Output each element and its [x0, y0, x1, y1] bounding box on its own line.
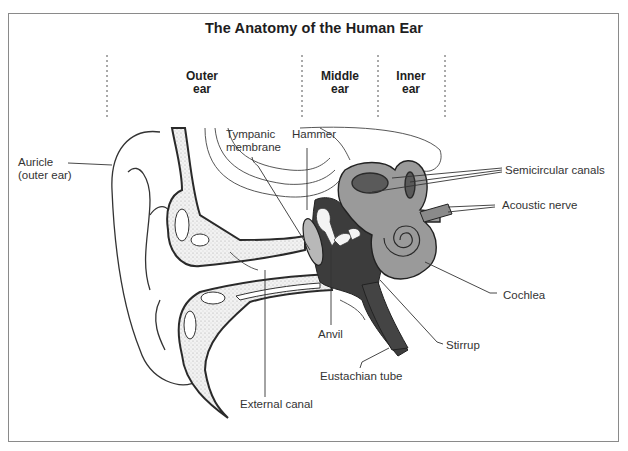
- label-anvil: Anvil: [318, 328, 343, 341]
- label-stirrup: Stirrup: [446, 339, 480, 352]
- label-tympanic-line1: Tympanic: [226, 128, 281, 141]
- ear-anatomy-illustration: [0, 0, 628, 451]
- label-eustachian-tube: Eustachian tube: [320, 370, 402, 383]
- leader-lines: [68, 148, 502, 397]
- label-external-canal: External canal: [240, 398, 313, 411]
- label-auricle-line2: (outer ear): [18, 169, 72, 182]
- section-dividers: [107, 55, 445, 118]
- label-auricle-line1: Auricle: [18, 156, 72, 169]
- label-tympanic-membrane: Tympanic membrane: [226, 128, 281, 154]
- label-tympanic-line2: membrane: [226, 141, 281, 154]
- label-hammer: Hammer: [292, 128, 336, 141]
- label-cochlea: Cochlea: [503, 289, 545, 302]
- label-acoustic-nerve: Acoustic nerve: [502, 199, 577, 212]
- label-auricle: Auricle (outer ear): [18, 156, 72, 182]
- label-semicircular-canals: Semicircular canals: [505, 164, 605, 177]
